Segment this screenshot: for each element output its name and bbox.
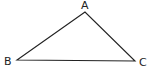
vertex-label-a: A	[81, 0, 89, 12]
triangle-abc	[17, 12, 135, 61]
triangle-diagram: A B C	[0, 0, 155, 72]
vertex-label-b: B	[4, 55, 12, 68]
vertex-label-c: C	[139, 56, 147, 69]
